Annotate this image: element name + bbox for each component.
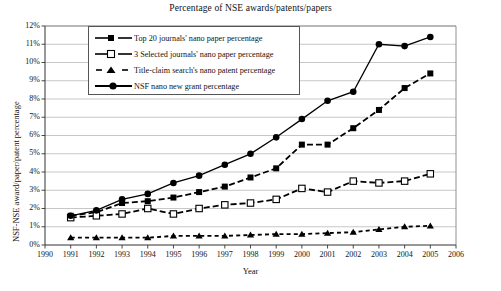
marker-filled-square (273, 165, 279, 171)
y-tick-label: 6% (5, 130, 40, 139)
marker-open-square (196, 205, 202, 211)
marker-open-square (324, 189, 330, 195)
marker-filled-circle (93, 207, 100, 214)
marker-filled-square (145, 198, 151, 204)
y-tick-label: 9% (5, 75, 40, 84)
y-tick-label: 7% (5, 112, 40, 121)
marker-filled-circle (401, 43, 408, 50)
legend-item-3journals: 3 Selected journals' nano paper percenta… (89, 46, 299, 62)
marker-filled-circle (376, 41, 383, 48)
marker-filled-circle (299, 116, 306, 123)
y-tick-label: 11% (5, 39, 40, 48)
legend-swatch-open-square-icon (94, 47, 134, 61)
legend-label-titleclaim: Title-claim search's nano patent percent… (134, 66, 275, 75)
marker-filled-circle (350, 88, 357, 95)
x-tick-label: 2006 (441, 250, 471, 259)
marker-open-square (350, 178, 356, 184)
marker-open-square (222, 202, 228, 208)
legend-swatch-filled-square-icon (94, 31, 134, 45)
y-tick-label: 0% (5, 240, 40, 249)
marker-filled-square (325, 142, 331, 148)
y-tick-label: 2% (5, 203, 40, 212)
legend-label-3journals: 3 Selected journals' nano paper percenta… (134, 50, 273, 59)
y-tick-label: 3% (5, 185, 40, 194)
y-tick-label: 8% (5, 94, 40, 103)
marker-open-square (299, 185, 305, 191)
marker-open-square (427, 171, 433, 177)
legend-item-titleclaim: Title-claim search's nano patent percent… (89, 62, 299, 78)
marker-filled-circle (170, 180, 177, 187)
legend-swatch-triangle-icon (94, 63, 134, 77)
y-tick-label: 12% (5, 21, 40, 30)
y-tick-label: 5% (5, 148, 40, 157)
marker-filled-circle (427, 34, 434, 41)
marker-filled-circle (222, 161, 229, 168)
marker-filled-square (427, 70, 433, 76)
marker-filled-circle (144, 191, 151, 198)
y-tick-label: 4% (5, 167, 40, 176)
marker-filled-circle (273, 134, 280, 141)
marker-triangle (170, 232, 177, 238)
marker-open-square (376, 180, 382, 186)
marker-filled-circle (324, 98, 331, 105)
marker-open-square (273, 196, 279, 202)
marker-triangle (427, 222, 434, 228)
legend-label-nsfgrant: NSF nano new grant percentage (134, 82, 239, 91)
chart-legend: Top 20 journals' nano paper percentage 3… (88, 26, 300, 95)
marker-filled-square (299, 142, 305, 148)
x-axis-label: Year (0, 266, 501, 276)
marker-open-square (170, 211, 176, 217)
marker-triangle (350, 229, 357, 235)
marker-filled-square (402, 85, 408, 91)
y-tick-label: 1% (5, 221, 40, 230)
legend-item-nsfgrant: NSF nano new grant percentage (89, 78, 299, 94)
legend-swatch-filled-circle-icon (94, 79, 134, 93)
legend-label-top20: Top 20 journals' nano paper percentage (134, 34, 262, 43)
chart-figure: Percentage of NSE awards/patents/papers … (0, 0, 501, 291)
marker-filled-circle (196, 172, 203, 179)
marker-open-square (401, 178, 407, 184)
legend-item-top20: Top 20 journals' nano paper percentage (89, 30, 299, 46)
marker-open-square (119, 211, 125, 217)
marker-filled-square (170, 195, 176, 201)
marker-filled-circle (247, 150, 254, 157)
marker-filled-square (222, 184, 228, 190)
marker-filled-square (376, 107, 382, 113)
marker-filled-square (248, 174, 254, 180)
marker-open-square (247, 200, 253, 206)
marker-filled-circle (119, 196, 126, 203)
marker-filled-square (196, 189, 202, 195)
marker-filled-circle (67, 213, 74, 220)
marker-filled-square (350, 125, 356, 131)
marker-open-square (145, 205, 151, 211)
y-tick-label: 10% (5, 57, 40, 66)
